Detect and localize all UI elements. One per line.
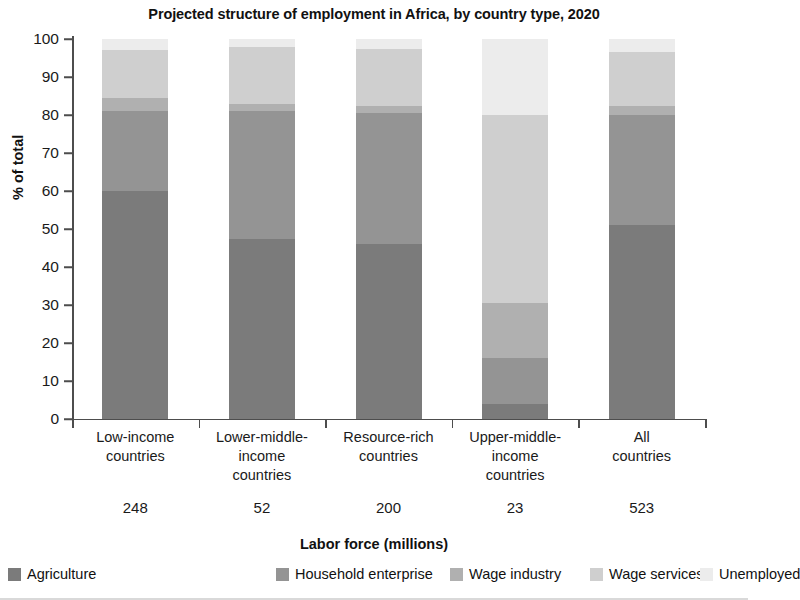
- y-axis-tick-label: 40: [42, 258, 59, 276]
- y-axis-tick: [64, 266, 72, 268]
- y-axis-tick-label: 100: [33, 30, 59, 48]
- bar-segment-wage-services[interactable]: [609, 52, 675, 105]
- y-axis-tick: [64, 380, 72, 382]
- y-axis-label: % of total: [10, 135, 26, 200]
- bar-segment-wage-industry[interactable]: [102, 98, 168, 111]
- legend-swatch-icon: [700, 568, 713, 581]
- bar-group[interactable]: [482, 39, 548, 419]
- x-axis-label: Labor force (millions): [0, 536, 748, 552]
- bar-segment-household-enterprise[interactable]: [356, 113, 422, 244]
- bar-segment-wage-services[interactable]: [102, 50, 168, 98]
- y-axis-tick: [64, 190, 72, 192]
- x-axis-separator-tick: [199, 419, 201, 428]
- bar-segment-agriculture[interactable]: [609, 225, 675, 419]
- labor-force-value: 200: [325, 499, 452, 516]
- bar-segment-agriculture[interactable]: [356, 244, 422, 419]
- legend-swatch-icon: [276, 568, 289, 581]
- labor-force-value: 52: [199, 499, 326, 516]
- y-axis-tick: [64, 76, 72, 78]
- labor-force-value: 248: [72, 499, 199, 516]
- y-axis-tick: [64, 304, 72, 306]
- x-axis-category-label: Resource-richcountries: [325, 428, 452, 466]
- bar-segment-agriculture[interactable]: [229, 239, 295, 420]
- chart-title: Projected structure of employment in Afr…: [0, 6, 748, 22]
- bar-segment-agriculture[interactable]: [102, 191, 168, 419]
- bar-segment-household-enterprise[interactable]: [102, 111, 168, 191]
- bar-segment-agriculture[interactable]: [482, 404, 548, 419]
- stacked-bar[interactable]: [229, 39, 295, 419]
- y-axis-tick-label: 0: [50, 410, 59, 428]
- y-axis-tick: [64, 152, 72, 154]
- legend-label: Household enterprise: [295, 566, 433, 582]
- bar-group[interactable]: [356, 39, 422, 419]
- legend-label: Wage industry: [469, 566, 561, 582]
- bar-segment-unemployed[interactable]: [229, 39, 295, 47]
- plot-area: 0102030405060708090100: [72, 39, 705, 419]
- y-axis-tick-label: 30: [42, 296, 59, 314]
- labor-force-value: 523: [578, 499, 705, 516]
- legend-swatch-icon: [590, 568, 603, 581]
- bar-segment-household-enterprise[interactable]: [609, 115, 675, 225]
- legend-item-agriculture[interactable]: Agriculture: [8, 566, 96, 582]
- bar-segment-unemployed[interactable]: [356, 39, 422, 49]
- y-axis-tick: [64, 228, 72, 230]
- bar-segment-wage-services[interactable]: [229, 47, 295, 104]
- stacked-bar[interactable]: [102, 39, 168, 419]
- stacked-bar[interactable]: [609, 39, 675, 419]
- y-axis-tick-label: 10: [42, 372, 59, 390]
- bar-segment-unemployed[interactable]: [102, 39, 168, 50]
- y-axis-tick-label: 70: [42, 144, 59, 162]
- y-axis-tick-label: 80: [42, 106, 59, 124]
- bar-segment-household-enterprise[interactable]: [229, 111, 295, 238]
- legend-swatch-icon: [450, 568, 463, 581]
- x-axis-category-label: Low-incomecountries: [72, 428, 199, 466]
- stacked-bar[interactable]: [482, 39, 548, 419]
- x-axis-separator-tick: [72, 419, 74, 428]
- x-axis-separator-tick: [578, 419, 580, 428]
- legend-label: Unemployed: [719, 566, 800, 582]
- bar-segment-wage-industry[interactable]: [356, 106, 422, 114]
- bar-group[interactable]: [609, 39, 675, 419]
- x-axis-category-label: Lower-middle-incomecountries: [199, 428, 326, 485]
- chart-legend: AgricultureHousehold enterpriseWage indu…: [0, 566, 748, 594]
- bar-segment-unemployed[interactable]: [609, 39, 675, 52]
- bar-segment-household-enterprise[interactable]: [482, 358, 548, 404]
- legend-label: Agriculture: [27, 566, 96, 582]
- y-axis-tick: [64, 38, 72, 40]
- bar-segment-wage-industry[interactable]: [229, 104, 295, 112]
- y-axis-tick-label: 50: [42, 220, 59, 238]
- legend-swatch-icon: [8, 568, 21, 581]
- y-axis-tick-label: 90: [42, 68, 59, 86]
- x-axis-category-label: Allcountries: [578, 428, 705, 466]
- legend-label: Wage services: [609, 566, 704, 582]
- y-axis-tick: [64, 342, 72, 344]
- x-axis-separator-tick: [325, 419, 327, 428]
- bar-segment-wage-industry[interactable]: [609, 106, 675, 116]
- legend-item-wage-services[interactable]: Wage services: [590, 566, 704, 582]
- stacked-bar[interactable]: [356, 39, 422, 419]
- x-axis-category-labels: Low-incomecountries248Lower-middle-incom…: [72, 428, 705, 508]
- y-axis-tick: [64, 418, 72, 420]
- x-axis-separator-tick: [452, 419, 454, 428]
- x-axis-separator-tick: [705, 419, 707, 428]
- y-axis-tick-label: 60: [42, 182, 59, 200]
- bar-group[interactable]: [229, 39, 295, 419]
- y-axis-tick: [64, 114, 72, 116]
- bar-segment-unemployed[interactable]: [482, 39, 548, 115]
- bar-segment-wage-services[interactable]: [356, 49, 422, 106]
- bar-segment-wage-industry[interactable]: [482, 303, 548, 358]
- legend-item-unemployed[interactable]: Unemployed: [700, 566, 800, 582]
- legend-item-wage-industry[interactable]: Wage industry: [450, 566, 561, 582]
- bar-segment-wage-services[interactable]: [482, 115, 548, 303]
- y-axis-tick-label: 20: [42, 334, 59, 352]
- bar-group[interactable]: [102, 39, 168, 419]
- labor-force-value: 23: [452, 499, 579, 516]
- x-axis-category-label: Upper-middle-incomecountries: [452, 428, 579, 485]
- legend-item-household-enterprise[interactable]: Household enterprise: [276, 566, 433, 582]
